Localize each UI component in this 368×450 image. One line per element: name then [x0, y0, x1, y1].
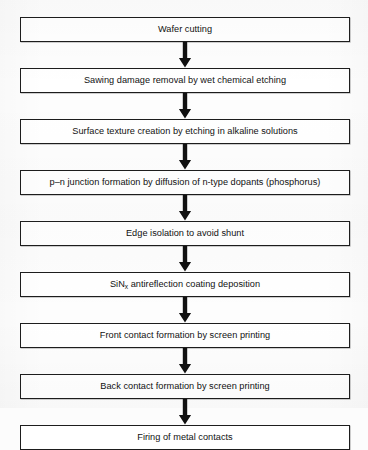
process-box-sawing-damage-removal[interactable]: Sawing damage removal by wet chemical et…	[20, 68, 350, 93]
process-box-firing-of-metal-contacts[interactable]: Firing of metal contacts	[20, 425, 350, 450]
process-box-label: Edge isolation to avoid shunt	[126, 229, 244, 238]
arrow-down-icon	[20, 42, 350, 68]
process-box-label: Back contact formation by screen printin…	[100, 382, 269, 391]
flow-node-step-1: Wafer cutting	[20, 17, 350, 42]
arrow-down-icon	[20, 246, 350, 272]
arrow-down-icon	[20, 93, 350, 119]
arrow-down-icon	[20, 297, 350, 323]
process-box-edge-isolation[interactable]: Edge isolation to avoid shunt	[20, 221, 350, 246]
process-box-label-tail: antireflection coating deposition	[128, 279, 260, 289]
process-box-label-main: SiN	[110, 279, 125, 289]
process-box-label: Front contact formation by screen printi…	[100, 331, 270, 340]
flowchart-step-stack: Wafer cutting Sawing damage removal by w…	[20, 17, 350, 450]
arrow-down-icon	[20, 399, 350, 425]
process-box-label-subscript: x	[125, 283, 128, 290]
process-box-label: Sawing damage removal by wet chemical et…	[84, 76, 286, 85]
process-box-back-contact-formation[interactable]: Back contact formation by screen printin…	[20, 374, 350, 399]
arrow-down-icon	[20, 348, 350, 374]
process-box-label: p–n junction formation by diffusion of n…	[50, 178, 321, 187]
arrow-down-icon	[20, 144, 350, 170]
process-box-label: SiNx antireflection coating deposition	[110, 280, 260, 289]
process-box-sinx-antireflection-coating[interactable]: SiNx antireflection coating deposition	[20, 272, 350, 297]
flow-node-step-9: Firing of metal contacts	[20, 425, 350, 450]
process-box-pn-junction-formation[interactable]: p–n junction formation by diffusion of n…	[20, 170, 350, 195]
flow-node-step-2: Sawing damage removal by wet chemical et…	[20, 68, 350, 93]
flow-node-step-6: SiNx antireflection coating deposition	[20, 272, 350, 297]
process-box-front-contact-formation[interactable]: Front contact formation by screen printi…	[20, 323, 350, 348]
process-box-label: Firing of metal contacts	[137, 433, 232, 442]
process-box-wafer-cutting[interactable]: Wafer cutting	[20, 17, 350, 42]
process-box-label: Surface texture creation by etching in a…	[72, 127, 297, 136]
flow-node-step-8: Back contact formation by screen printin…	[20, 374, 350, 399]
flow-node-step-4: p–n junction formation by diffusion of n…	[20, 170, 350, 195]
flow-node-step-3: Surface texture creation by etching in a…	[20, 119, 350, 144]
process-box-label: Wafer cutting	[158, 25, 212, 34]
flow-node-step-5: Edge isolation to avoid shunt	[20, 221, 350, 246]
arrow-down-icon	[20, 195, 350, 221]
process-box-surface-texture-creation[interactable]: Surface texture creation by etching in a…	[20, 119, 350, 144]
flow-node-step-7: Front contact formation by screen printi…	[20, 323, 350, 348]
